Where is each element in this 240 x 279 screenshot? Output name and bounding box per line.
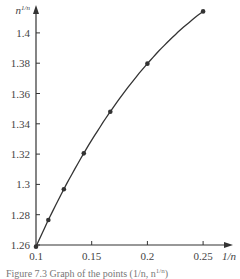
x-tick-label: 0.15 <box>82 250 102 262</box>
x-tick-label: 0.1 <box>29 250 43 262</box>
x-tick-label: 0.25 <box>193 250 213 262</box>
y-tick-label: 1.36 <box>11 88 31 100</box>
y-tick-label: 1.4 <box>16 27 30 39</box>
data-point <box>62 187 67 192</box>
data-point <box>34 244 39 249</box>
x-axis-arrow-icon <box>224 242 233 248</box>
data-point <box>201 9 206 14</box>
curve-line <box>36 11 203 246</box>
y-tick-label: 1.32 <box>11 148 30 160</box>
y-tick-label: 1.34 <box>11 118 31 130</box>
data-point <box>145 61 150 66</box>
y-axis-label: n1/n <box>16 4 31 16</box>
x-tick-label: 0.2 <box>141 250 155 262</box>
y-tick-label: 1.28 <box>11 209 31 221</box>
data-series <box>34 9 206 249</box>
data-point <box>108 109 113 114</box>
caption-end: ) <box>165 268 168 279</box>
figure-caption: Figure 7.3 Graph of the points (1/n, n1/… <box>6 267 168 279</box>
caption-sup: 1/n <box>156 267 165 275</box>
y-tick-label: 1.26 <box>11 239 31 251</box>
axes: 1.261.281.31.321.341.361.381.40.10.150.2… <box>11 4 237 262</box>
caption-text: Figure 7.3 Graph of the points (1/n, n <box>6 268 156 279</box>
data-point <box>46 218 51 223</box>
x-axis-label: 1/n <box>222 250 237 262</box>
data-point <box>81 151 86 156</box>
y-tick-label: 1.38 <box>11 57 31 69</box>
y-tick-label: 1.3 <box>16 178 30 190</box>
y-axis-arrow-icon <box>33 5 39 14</box>
